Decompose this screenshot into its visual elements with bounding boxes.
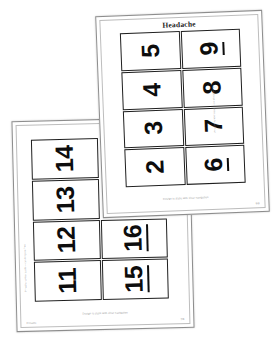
- number-card[interactable]: 12: [33, 220, 100, 261]
- number-card-value: 11: [55, 268, 81, 294]
- number-card[interactable]: 15: [101, 259, 168, 300]
- worksheet-page-front[interactable]: Headache 5 9 4 8 3 7 2: [95, 10, 270, 218]
- number-card-value: 6: [201, 158, 229, 172]
- number-card[interactable]: 16: [100, 218, 167, 259]
- number-card[interactable]: 11: [34, 260, 101, 301]
- number-card-value: 12: [54, 227, 80, 254]
- number-card-value: 4: [139, 83, 164, 97]
- number-card-value: 14: [52, 145, 78, 172]
- number-card-value: 13: [53, 186, 79, 213]
- canvas: Headache 14 13 12 16 11 15 Design i: [0, 0, 275, 346]
- number-card-grid-front: 5 9 4 8 3 7 2 6: [120, 29, 246, 187]
- number-card[interactable]: 5: [120, 31, 181, 71]
- number-card-value: 9: [197, 42, 225, 56]
- page-footer-left-back: Printable: [26, 322, 36, 325]
- number-card-value: 16: [120, 225, 149, 252]
- number-card[interactable]: 9: [180, 29, 241, 69]
- page-footer-right-back: 7/8: [180, 317, 184, 321]
- number-card[interactable]: 6: [185, 145, 246, 185]
- number-card[interactable]: 14: [31, 138, 98, 179]
- number-card-value: 2: [142, 160, 167, 174]
- number-card[interactable]: 3: [123, 109, 184, 149]
- number-card-value: 3: [141, 121, 166, 135]
- number-card-value: 15: [121, 266, 150, 293]
- number-card-value: 5: [138, 44, 163, 58]
- number-card[interactable]: 13: [32, 179, 99, 220]
- number-card[interactable]: 4: [121, 70, 182, 110]
- page-footer-right-front: 6/8: [256, 201, 260, 205]
- number-card[interactable]: 2: [124, 147, 185, 187]
